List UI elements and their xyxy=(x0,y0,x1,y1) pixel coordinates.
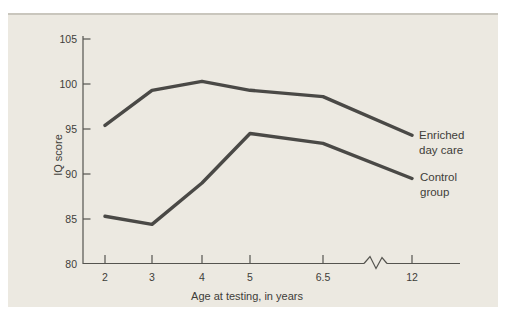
series-label-line: group xyxy=(420,186,449,198)
series-label-control-group: Controlgroup xyxy=(420,171,457,198)
line-control-group xyxy=(105,134,412,225)
y-axis-ticks: 80859095100105 xyxy=(59,33,90,270)
y-tick-label: 80 xyxy=(65,258,77,270)
x-tick-label: 4 xyxy=(199,271,205,283)
y-tick-label: 90 xyxy=(65,168,77,180)
x-axis-break-icon xyxy=(364,257,387,269)
series-label-enriched-day-care: Enrichedday care xyxy=(419,129,464,156)
x-tick-label: 2 xyxy=(102,271,108,283)
y-tick-label: 85 xyxy=(65,213,77,225)
line-enriched-day-care xyxy=(105,81,412,135)
y-axis-title: IQ score xyxy=(52,134,64,176)
series-label-line: day care xyxy=(419,144,463,156)
series-label-line: Control xyxy=(420,171,457,183)
x-axis-title: Age at testing, in years xyxy=(191,290,303,302)
y-tick-label: 95 xyxy=(65,123,77,135)
y-tick-label: 100 xyxy=(59,78,77,90)
series-labels: Enrichedday careControlgroup xyxy=(419,129,464,198)
series-label-line: Enriched xyxy=(419,129,464,141)
x-tick-label: 12 xyxy=(406,271,418,283)
iq-line-chart: 80859095100105 23456.512 Enrichedday car… xyxy=(0,0,523,330)
x-tick-label: 5 xyxy=(247,271,253,283)
x-axis-ticks: 23456.512 xyxy=(102,255,418,283)
x-tick-label: 6.5 xyxy=(316,271,331,283)
x-tick-label: 3 xyxy=(149,271,155,283)
y-tick-label: 105 xyxy=(59,33,77,45)
data-series-lines xyxy=(105,81,412,224)
